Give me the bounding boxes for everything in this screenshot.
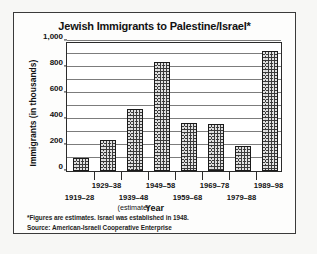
x-tick-label: 1919–28 bbox=[65, 193, 95, 202]
y-tick-label: 600 bbox=[50, 84, 63, 93]
x-tick-label: 1979–88 bbox=[227, 193, 257, 202]
chart-figure-frame: Jewish Immigrants to Palestine/Israel* I… bbox=[13, 12, 296, 234]
bars-layer bbox=[67, 43, 281, 171]
y-tick-label: 400 bbox=[50, 110, 63, 119]
bar bbox=[127, 109, 143, 171]
gridline bbox=[67, 40, 281, 41]
bar bbox=[235, 146, 251, 171]
x-tick-label: 1989–98 bbox=[254, 181, 284, 190]
x-tick-label: 1959–68 bbox=[173, 193, 203, 202]
bar bbox=[100, 140, 116, 171]
footnotes-block: *Figures are estimates. Israel was estab… bbox=[27, 213, 277, 233]
x-tick-label: 1929–38 bbox=[92, 181, 122, 190]
y-tick-label: 0 bbox=[59, 162, 63, 171]
y-tick-label: 800 bbox=[50, 58, 63, 67]
y-tick-mark bbox=[64, 39, 67, 40]
chart-title: Jewish Immigrants to Palestine/Israel* bbox=[14, 20, 295, 32]
plot-area: 1,0008006004002000 bbox=[66, 42, 282, 172]
x-axis-title: Year bbox=[14, 203, 295, 213]
x-tick-label: 1949–58 bbox=[146, 181, 176, 190]
bar bbox=[262, 51, 278, 171]
y-tick-label: 1,000 bbox=[43, 32, 63, 41]
y-tick-label: 200 bbox=[50, 136, 63, 145]
bar bbox=[208, 124, 224, 171]
bar bbox=[73, 158, 89, 171]
bar bbox=[154, 62, 170, 171]
footnote-estimates: *Figures are estimates. Israel was estab… bbox=[27, 213, 277, 223]
y-axis-title: Immigrants (in thousands) bbox=[28, 53, 38, 173]
footnote-source: Source: American-Israeli Cooperative Ent… bbox=[27, 223, 277, 233]
scanned-page-background: Jewish Immigrants to Palestine/Israel* I… bbox=[0, 0, 317, 254]
x-tick-label: 1969–78 bbox=[200, 181, 230, 190]
bar bbox=[181, 123, 197, 171]
